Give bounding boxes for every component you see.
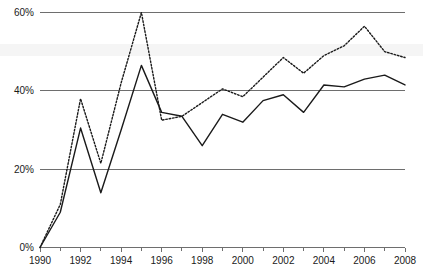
y-axis-label-40%: 40% [14,85,34,96]
x-axis-label-2008: 2008 [394,255,417,266]
x-axis-label-1994: 1994 [110,255,133,266]
x-axis-label-1998: 1998 [191,255,214,266]
y-axis-label-0%: 0% [20,242,35,253]
x-axis-label-1992: 1992 [69,255,92,266]
x-axis-label-1996: 1996 [151,255,174,266]
chart-container: 0%20%40%60% 1990199219941996199820002002… [0,0,423,279]
x-axis-label-2004: 2004 [313,255,336,266]
x-axis-label-2000: 2000 [232,255,255,266]
y-axis-label-60%: 60% [14,7,34,18]
y-axis-label-20%: 20% [14,164,34,175]
chart-background [0,0,423,279]
x-axis-label-2002: 2002 [272,255,295,266]
x-axis-label-2006: 2006 [353,255,376,266]
background-band [0,44,423,56]
line-chart: 0%20%40%60% 1990199219941996199820002002… [0,0,423,279]
x-axis-label-1990: 1990 [29,255,52,266]
